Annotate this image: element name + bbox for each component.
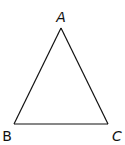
vertex-label-a: A [55, 9, 66, 25]
edge-ca [61, 28, 108, 124]
vertex-label-c: C [112, 128, 122, 144]
triangle-diagram: A B C [0, 0, 125, 145]
vertex-label-b: B [2, 128, 12, 144]
edge-ab [14, 28, 61, 124]
